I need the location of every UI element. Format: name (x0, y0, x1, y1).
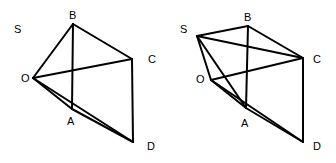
vertex-label-c: C (148, 53, 156, 65)
edge-ob (33, 24, 73, 78)
edge-oc (33, 59, 132, 78)
vertex-label-a: A (67, 115, 75, 127)
vertex-label-d: D (313, 140, 321, 152)
vertex-label-d: D (147, 140, 155, 152)
vertex-label-b: B (69, 9, 76, 21)
vertex-label-o: O (196, 73, 205, 85)
figure-right-pyramid-with-apex-s: SBCOAD (180, 11, 321, 152)
edge-cd (132, 59, 133, 142)
edge-oc (211, 58, 303, 80)
vertex-label-c: C (313, 53, 321, 65)
figure-left-pyramid: SBCOAD (14, 9, 156, 152)
vertex-label-s: S (14, 23, 21, 35)
vertex-label-b: B (244, 11, 251, 23)
edge-od (33, 78, 133, 142)
edge-sb (197, 26, 248, 36)
vertex-label-a: A (241, 117, 249, 129)
geometry-diagram: SBCOAD SBCOAD (0, 0, 336, 163)
edge-ba (246, 26, 248, 108)
edge-bc (73, 24, 132, 59)
vertex-label-s: S (180, 23, 187, 35)
edge-sa (197, 36, 246, 108)
edge-od (211, 80, 303, 142)
edge-ba (72, 24, 73, 109)
vertex-label-o: O (21, 72, 30, 84)
edge-sc (197, 36, 303, 58)
